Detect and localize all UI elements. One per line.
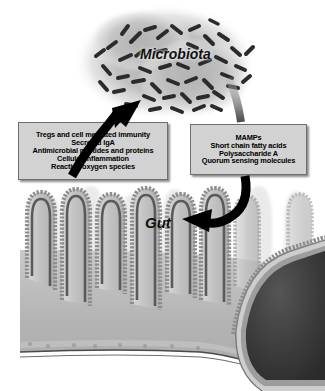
arrows-layer [0,0,325,391]
host-to-microbiota-arrow [72,100,141,176]
gut-microbiota-crosstalk-figure: Tregs and cell mediated immunity Secrete… [0,0,325,391]
microbiota-to-gut-arrow-tail [229,78,241,122]
microbiota-to-gut-arrow [182,176,246,232]
